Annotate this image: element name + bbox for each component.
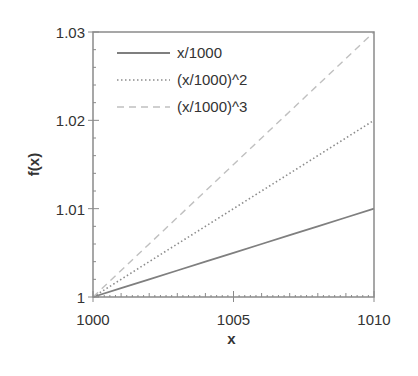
legend-label-3: (x/1000)^3 [177,98,247,115]
series-line-2 [93,120,374,297]
y-tick-label: 1.03 [56,24,85,41]
y-axis-title: f(x) [25,153,42,176]
line-chart: 10001005101011.011.021.03xf(x)x/1000(x/1… [0,0,418,376]
series-line-1 [93,209,374,297]
x-tick-label: 1010 [357,311,390,328]
x-axis-title: x [227,330,236,347]
legend-label-2: (x/1000)^2 [177,71,247,88]
x-tick-label: 1005 [217,311,250,328]
legend-label-1: x/1000 [177,44,222,61]
y-tick-label: 1 [77,289,85,306]
y-tick-label: 1.02 [56,112,85,129]
y-tick-label: 1.01 [56,201,85,218]
x-tick-label: 1000 [76,311,109,328]
